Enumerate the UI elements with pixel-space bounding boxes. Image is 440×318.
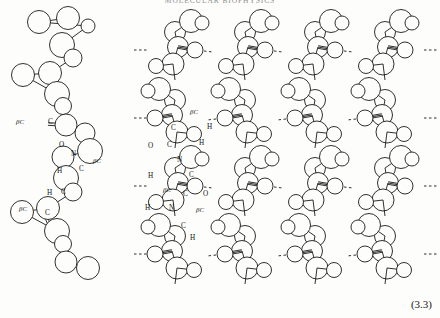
hydrogen-bond xyxy=(347,119,356,120)
sheet-atom-label: C xyxy=(171,124,176,132)
hydrogen-atom xyxy=(195,16,209,30)
atom-circle xyxy=(55,114,77,136)
left-chain-atom-label: H xyxy=(57,167,62,175)
amide-hydrogen-atom xyxy=(289,59,304,74)
oxygen-atom xyxy=(147,246,163,262)
hydrogen-atom xyxy=(335,16,349,30)
hydrogen-atom xyxy=(141,84,155,98)
sheet-atom-label: H xyxy=(207,123,212,131)
sheet-atom-label: H xyxy=(145,204,150,212)
sheet-atom-label: C xyxy=(189,171,194,179)
beta-sheet-array xyxy=(134,10,438,285)
amide-hydrogen-atom xyxy=(257,263,272,278)
atom-circle xyxy=(28,11,51,34)
left-chain-atom-label: C xyxy=(79,165,84,173)
hydrogen-bond xyxy=(274,51,283,52)
sheet-atom-label: O xyxy=(148,142,153,150)
sheet-atom-label: H xyxy=(148,172,153,180)
left-chain-atom-label: O xyxy=(59,141,64,149)
hydrogen-bond xyxy=(204,51,213,52)
oxygen-atom xyxy=(327,178,343,194)
atom-circle xyxy=(39,62,62,85)
left-chain-atom-label: N xyxy=(71,150,77,158)
hydrogen-bond xyxy=(277,119,286,120)
atom-circle xyxy=(64,183,82,201)
equation-number: (3.3) xyxy=(411,298,432,310)
atom-circle xyxy=(12,64,35,87)
hydrogen-atom xyxy=(265,152,279,166)
hydrogen-bond xyxy=(277,255,286,256)
amide-hydrogen-atom xyxy=(257,127,272,142)
oxygen-atom xyxy=(187,178,203,194)
oxygen-atom xyxy=(357,246,373,262)
amide-hydrogen-atom xyxy=(149,195,164,210)
hydrogen-atom xyxy=(281,220,295,234)
sheet-atom-label: C xyxy=(167,141,172,149)
left-chain-atom-label: C xyxy=(45,209,50,217)
atom-circle xyxy=(55,236,72,253)
sheet-atom-label: H xyxy=(199,139,204,147)
hydrogen-atom xyxy=(351,84,365,98)
oxygen-atom xyxy=(147,110,163,126)
oxygen-atom xyxy=(287,110,303,126)
hydrogen-atom xyxy=(405,16,419,30)
hydrogen-atom xyxy=(141,220,155,234)
hydrogen-bond xyxy=(344,187,353,188)
sheet-atom-label: O xyxy=(203,190,208,198)
hydrogen-atom xyxy=(195,152,209,166)
amide-hydrogen-atom xyxy=(327,263,342,278)
figure-page: MOLECULAR BIOPHYSICS βCCONβCHCHCβCCβCCHO… xyxy=(0,0,440,318)
hydrogen-atom xyxy=(211,84,225,98)
hydrogen-bond xyxy=(207,255,216,256)
left-polypeptide-chain xyxy=(11,7,103,280)
sheet-atom-label: βC xyxy=(195,206,204,213)
atom-circle xyxy=(64,49,82,67)
hydrogen-bond xyxy=(207,119,216,120)
oxygen-atom xyxy=(217,110,233,126)
sheet-atom-label: N xyxy=(177,156,183,164)
sheet-atom-label: βC xyxy=(189,108,198,115)
hydrogen-atom xyxy=(265,16,279,30)
atom-circle xyxy=(77,257,100,280)
atom-circle xyxy=(55,251,77,273)
oxygen-atom xyxy=(287,246,303,262)
sheet-atom-label: C xyxy=(181,222,186,230)
oxygen-atom xyxy=(397,42,413,58)
molecular-structure-figure: βCCONβCHCHCβCCβCCHOCHNHCβCCOHNβCCH xyxy=(0,0,440,318)
hydrogen-atom xyxy=(335,152,349,166)
amide-hydrogen-atom xyxy=(187,263,202,278)
atom-circle xyxy=(55,98,72,115)
amide-hydrogen-atom xyxy=(397,263,412,278)
amide-hydrogen-atom xyxy=(219,59,234,74)
amide-hydrogen-atom xyxy=(219,195,234,210)
hydrogen-atom xyxy=(211,220,225,234)
sheet-atom-label: H xyxy=(190,234,195,242)
hydrogen-atom xyxy=(405,152,419,166)
oxygen-atom xyxy=(257,178,273,194)
left-chain-atom-label: βC xyxy=(92,157,101,164)
left-chain-atom-label: C xyxy=(48,118,53,126)
hydrogen-atom xyxy=(351,220,365,234)
oxygen-atom xyxy=(397,178,413,194)
amide-hydrogen-atom xyxy=(359,59,374,74)
sheet-atom-label: C xyxy=(183,190,188,198)
amide-hydrogen-atom xyxy=(149,59,164,74)
oxygen-atom xyxy=(357,110,373,126)
sheet-atom-label: N xyxy=(169,204,175,212)
atom-circle xyxy=(81,19,95,33)
oxygen-atom xyxy=(327,42,343,58)
hydrogen-bond xyxy=(204,187,213,188)
amide-hydrogen-atom xyxy=(397,127,412,142)
hydrogen-atom xyxy=(281,84,295,98)
amide-hydrogen-atom xyxy=(359,195,374,210)
amide-hydrogen-atom xyxy=(289,195,304,210)
left-chain-atom-label: C xyxy=(61,188,66,196)
amide-hydrogen-atom xyxy=(327,127,342,142)
oxygen-atom xyxy=(187,42,203,58)
hydrogen-bond xyxy=(347,255,356,256)
oxygen-atom xyxy=(217,246,233,262)
left-chain-atom-label: βC xyxy=(15,118,24,125)
left-chain-atom-label: H xyxy=(47,189,52,197)
sheet-atom-label: βC xyxy=(162,186,171,193)
hydrogen-bond xyxy=(274,187,283,188)
